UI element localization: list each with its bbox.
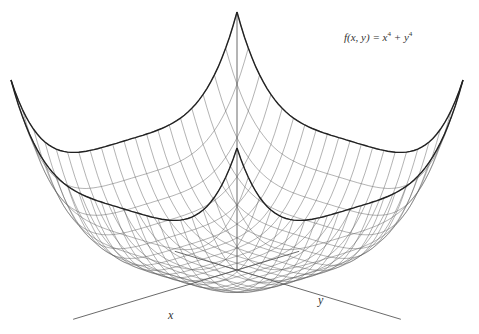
surface-boundary-edge: [237, 80, 463, 220]
mesh-line-u: [169, 152, 395, 292]
function-label: f(x, y) = x4 + y4: [344, 30, 412, 43]
y-axis-line: [73, 251, 299, 319]
surface-plot: f(x, y) = x4 + y4 x y: [0, 0, 479, 334]
mesh-line-v: [135, 138, 361, 278]
mesh-line-v: [79, 152, 305, 292]
mesh-line-v: [11, 80, 237, 220]
mesh-line-v: [34, 129, 260, 269]
surface-mesh: [0, 0, 479, 334]
y-axis-label: y: [318, 293, 323, 308]
mesh-line-v: [214, 75, 440, 215]
mesh-line-u: [68, 118, 294, 258]
mesh-line-u: [22, 48, 248, 188]
mesh-line-v: [226, 48, 452, 188]
mesh-line-u: [214, 129, 440, 269]
mesh-line-v: [169, 125, 395, 265]
x-axis-label: x: [168, 308, 173, 323]
mesh-line-v: [68, 152, 294, 292]
mesh-line-u: [79, 125, 305, 265]
mesh-line-u: [11, 12, 237, 152]
surface-boundary-edge: [11, 12, 237, 152]
mesh-line-u: [113, 138, 339, 278]
x-axis-line: [175, 251, 401, 319]
surface-boundary-edge: [11, 80, 237, 220]
mesh-line-u: [237, 80, 463, 220]
mesh-line-u: [181, 152, 407, 292]
mesh-line-u: [34, 75, 260, 215]
mesh-line-v: [181, 118, 407, 258]
